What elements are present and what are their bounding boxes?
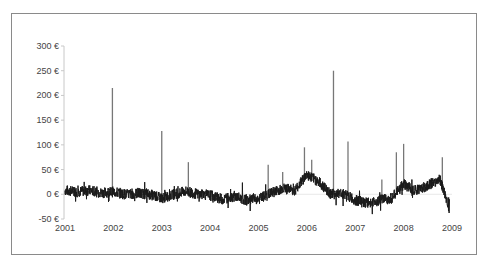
- price-spikes: [112, 71, 442, 200]
- y-tick-label: 200 €: [36, 90, 59, 100]
- x-tick-label: 2002: [103, 223, 123, 233]
- y-tick-label: 150 €: [36, 115, 59, 125]
- x-tick-label: 2001: [55, 223, 75, 233]
- line-chart: -50 €0 €50 €100 €150 €200 €250 €300 € 20…: [0, 0, 486, 269]
- x-tick-label: 2008: [394, 223, 414, 233]
- x-axis: 200120022003200420052006200720082009: [55, 223, 462, 233]
- x-tick-label: 2006: [297, 223, 317, 233]
- y-tick-label: 50 €: [41, 165, 59, 175]
- y-tick-label: 100 €: [36, 140, 59, 150]
- x-tick-label: 2004: [200, 223, 220, 233]
- y-tick-label: 0 €: [46, 189, 59, 199]
- x-tick-label: 2009: [442, 223, 462, 233]
- y-tick-label: 300 €: [36, 41, 59, 51]
- x-tick-label: 2005: [248, 223, 268, 233]
- y-tick-label: 250 €: [36, 66, 59, 76]
- x-tick-label: 2003: [152, 223, 172, 233]
- x-tick-label: 2007: [345, 223, 365, 233]
- price-series-line: [65, 171, 450, 214]
